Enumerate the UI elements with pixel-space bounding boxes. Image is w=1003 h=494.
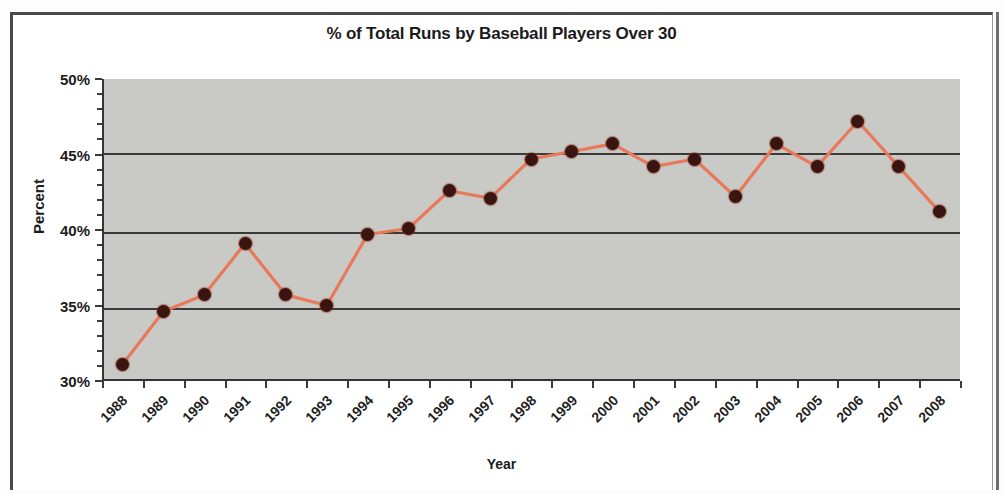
data-point-marker bbox=[239, 237, 252, 250]
data-point-marker bbox=[770, 137, 783, 150]
x-tick-mark bbox=[225, 381, 227, 388]
data-point-marker bbox=[525, 153, 538, 166]
x-tick-mark bbox=[388, 381, 390, 388]
x-tick-mark bbox=[878, 381, 880, 388]
x-tick-mark bbox=[143, 381, 145, 388]
y-tick-minor-mark bbox=[97, 123, 102, 125]
y-tick-minor-mark bbox=[97, 214, 102, 216]
plot-area bbox=[102, 79, 960, 381]
y-tick-label: 40% bbox=[30, 222, 90, 239]
data-point-marker bbox=[443, 184, 456, 197]
y-axis-title: Percent bbox=[30, 147, 47, 267]
y-tick-mark bbox=[95, 305, 102, 307]
x-tick-mark bbox=[633, 381, 635, 388]
y-tick-label: 35% bbox=[30, 297, 90, 314]
chart-page: % of Total Runs by Baseball Players Over… bbox=[0, 0, 1003, 494]
y-tick-mark bbox=[95, 229, 102, 231]
y-tick-minor-mark bbox=[97, 350, 102, 352]
data-point-marker bbox=[361, 228, 374, 241]
data-point-marker bbox=[811, 160, 824, 173]
y-tick-minor-mark bbox=[97, 169, 102, 171]
data-point-marker bbox=[157, 305, 170, 318]
gridline-35 bbox=[104, 308, 960, 310]
x-tick-mark bbox=[919, 381, 921, 388]
x-tick-mark bbox=[265, 381, 267, 388]
data-point-marker bbox=[729, 190, 742, 203]
data-point-marker bbox=[116, 358, 129, 371]
x-tick-mark bbox=[797, 381, 799, 388]
y-tick-minor-mark bbox=[97, 184, 102, 186]
gridline-40 bbox=[104, 232, 960, 234]
x-tick-mark bbox=[102, 381, 104, 388]
y-tick-minor-mark bbox=[97, 335, 102, 337]
y-tick-label: 30% bbox=[30, 373, 90, 390]
y-tick-minor-mark bbox=[97, 108, 102, 110]
data-point-marker bbox=[402, 222, 415, 235]
x-tick-mark bbox=[429, 381, 431, 388]
y-tick-minor-mark bbox=[97, 93, 102, 95]
x-tick-mark bbox=[347, 381, 349, 388]
x-tick-mark bbox=[511, 381, 513, 388]
x-tick-mark bbox=[674, 381, 676, 388]
chart-title: % of Total Runs by Baseball Players Over… bbox=[0, 24, 1003, 44]
x-tick-mark bbox=[756, 381, 758, 388]
y-tick-label: 50% bbox=[30, 71, 90, 88]
y-tick-mark bbox=[95, 78, 102, 80]
y-tick-minor-mark bbox=[97, 138, 102, 140]
x-tick-mark bbox=[306, 381, 308, 388]
y-tick-label: 45% bbox=[30, 146, 90, 163]
x-tick-mark bbox=[470, 381, 472, 388]
x-axis-title: Year bbox=[0, 456, 1003, 472]
x-tick-mark bbox=[551, 381, 553, 388]
y-tick-minor-mark bbox=[97, 274, 102, 276]
y-tick-minor-mark bbox=[97, 259, 102, 261]
y-tick-minor-mark bbox=[97, 365, 102, 367]
y-tick-mark bbox=[95, 154, 102, 156]
y-tick-minor-mark bbox=[97, 289, 102, 291]
image-border-right-edge bbox=[996, 12, 999, 490]
data-point-marker bbox=[198, 288, 211, 301]
x-tick-mark bbox=[184, 381, 186, 388]
x-tick-mark bbox=[960, 381, 962, 388]
data-point-marker bbox=[484, 192, 497, 205]
y-tick-minor-mark bbox=[97, 199, 102, 201]
data-point-marker bbox=[688, 153, 701, 166]
y-tick-minor-mark bbox=[97, 320, 102, 322]
x-tick-mark bbox=[592, 381, 594, 388]
x-tick-mark bbox=[715, 381, 717, 388]
y-tick-minor-mark bbox=[97, 244, 102, 246]
x-tick-mark bbox=[837, 381, 839, 388]
y-tick-mark bbox=[95, 380, 102, 382]
